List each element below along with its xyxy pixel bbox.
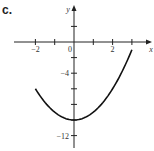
x-tick-label: 2 [111,45,115,54]
function-graph: −202−4−12xy [0,0,154,151]
x-tick-label: −2 [31,45,40,54]
x-tick-label: 0 [68,45,72,54]
x-axis-label: x [148,45,153,54]
axes [14,5,152,148]
y-tick-label: −4 [60,69,69,78]
parabola-curve [35,50,131,120]
x-axis-arrow-icon [146,40,152,45]
y-axis-label: y [65,5,70,14]
y-tick-label: −12 [56,132,69,141]
tick-labels: −202−4−12xy [31,5,153,141]
y-axis-arrow-icon [72,5,77,11]
